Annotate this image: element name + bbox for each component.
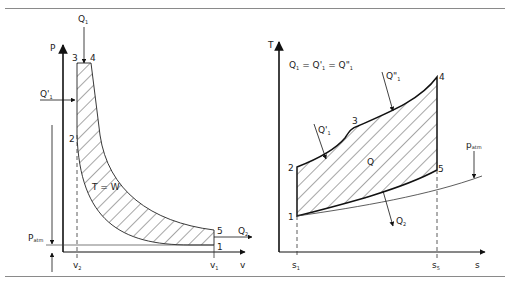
- v1-tick-label: v1: [210, 260, 219, 271]
- pv-cycle-area: [77, 63, 214, 245]
- point-4-label: 4: [90, 53, 96, 63]
- patm-label: patm: [466, 140, 482, 150]
- q2-arrow: [383, 191, 393, 226]
- point-3-label: 3: [72, 53, 78, 63]
- point-2-label: 2: [69, 134, 75, 144]
- point-3-label: 3: [352, 116, 358, 126]
- point-1-label: 1: [217, 242, 223, 252]
- ts-diagram: T s 1 2 3 4 5 Q Q1 = Q'1 = Q"1 Q'1 Q"1 Q…: [267, 40, 485, 271]
- q1-prime-label: Q'1: [318, 125, 331, 136]
- heat-equation: Q1 = Q'1 = Q"1: [289, 60, 353, 71]
- s-axis-label: s: [475, 260, 480, 270]
- q1-label: Q1: [78, 14, 88, 25]
- point-5-label: 5: [438, 164, 444, 174]
- q1-double-prime-label: Q"1: [386, 71, 400, 82]
- v-axis-label: v: [240, 260, 246, 270]
- p-axis-label: P: [50, 43, 56, 53]
- t-axis-label: T: [267, 40, 274, 50]
- s1-tick-label: s1: [292, 260, 300, 271]
- point-5-label: 5: [217, 226, 223, 236]
- point-1-label: 1: [288, 212, 294, 222]
- patm-label: Patm: [28, 233, 43, 243]
- v2-tick-label: v2: [73, 260, 82, 271]
- area-label-q: Q: [367, 157, 374, 167]
- q2-label: Q2: [396, 216, 406, 227]
- point-2-label: 2: [288, 163, 294, 173]
- s5-tick-label: s5: [432, 260, 440, 271]
- point-4-label: 4: [439, 72, 445, 82]
- thermo-diagram: P v 3 4 2 5 1 T = W Q1 Q'1 Q2 Patm v2 v1: [0, 0, 508, 285]
- q1-prime-label: Q'1: [40, 89, 53, 100]
- pv-diagram: P v 3 4 2 5 1 T = W Q1 Q'1 Q2 Patm v2 v1: [28, 14, 252, 272]
- q2-label: Q2: [238, 226, 248, 237]
- area-label-tw: T = W: [91, 182, 120, 192]
